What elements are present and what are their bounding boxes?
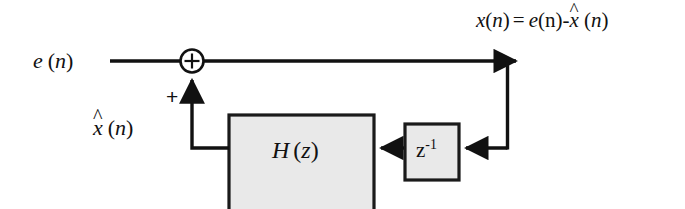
input-signal-label: e(n) <box>33 50 73 72</box>
feedback-hat-group: ^x <box>93 117 103 139</box>
output-eq-term2-argument: n <box>591 8 602 32</box>
delay-block-label: z-1 <box>416 138 437 161</box>
circumflex-accent-icon: ^ <box>93 106 103 126</box>
input-argument: n <box>55 48 66 73</box>
filter-symbol: H <box>272 137 289 163</box>
feedback-return-wire <box>192 80 229 148</box>
output-eq-term1-symbol: e <box>529 8 538 32</box>
filter-block-label: H(z) <box>272 138 319 162</box>
output-eq-minus: - <box>563 8 570 32</box>
output-eq-lhs-symbol: x <box>476 8 485 32</box>
circumflex-accent-icon: ^ <box>569 0 578 19</box>
output-eq-term1-argument: n <box>545 8 556 32</box>
delay-symbol: z <box>416 138 425 162</box>
block-diagram-canvas: x(n)=e(n)-^x (n) e(n) ^x(n) + H(z) z-1 <box>0 0 685 209</box>
output-eq-term2-hat-group: ^x <box>570 10 579 31</box>
delay-exponent: -1 <box>425 137 437 152</box>
output-eq-lhs-argument: n <box>492 8 503 32</box>
output-equation-label: x(n)=e(n)-^x (n) <box>476 10 609 31</box>
feedback-argument: n <box>115 115 126 140</box>
output-eq-equals: = <box>513 8 525 32</box>
filter-argument: z <box>301 137 310 163</box>
input-symbol: e <box>33 48 43 73</box>
feedback-signal-label: ^x(n) <box>93 117 133 139</box>
summing-junction-input-sign: + <box>166 86 178 107</box>
